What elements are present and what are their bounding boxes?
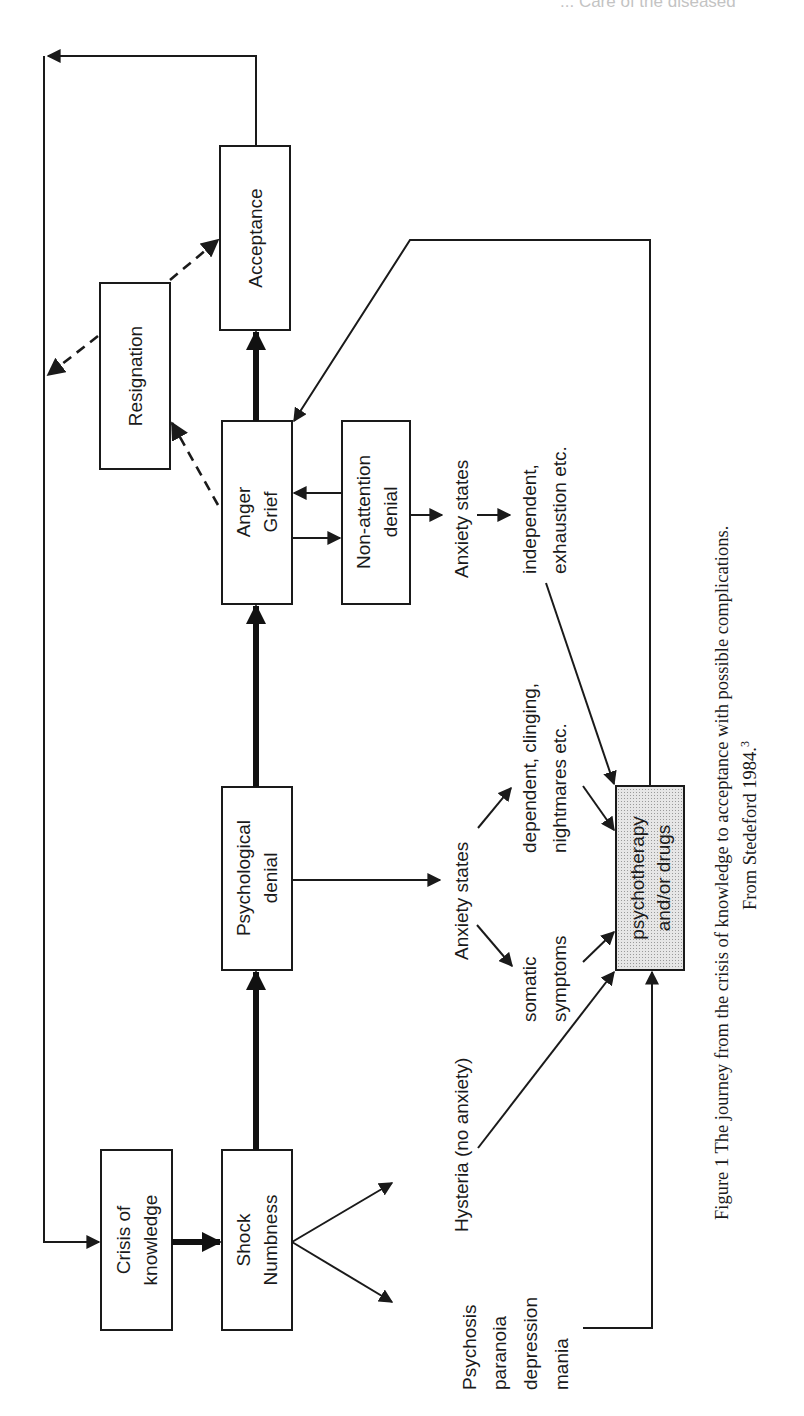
hysteria-label: Hysteria (no anxiety) <box>451 1058 472 1232</box>
loop-left <box>44 56 99 1242</box>
arrow-resignation-loop <box>48 336 98 375</box>
flow-diagram: Crisis of knowledge Shock Numbness Psych… <box>0 0 804 1416</box>
independent-label-2: exhaustion etc. <box>549 446 570 574</box>
shock-label-1: Shock <box>233 1213 254 1266</box>
anger-label-1: Anger <box>233 486 254 537</box>
psychosis-label-4: mania <box>551 1338 572 1390</box>
arrow-to-psychosis <box>292 1242 392 1302</box>
dependent-label-1: dependent, clinging, <box>519 683 540 853</box>
nonattention-label-1: Non-attention <box>353 455 374 569</box>
caption-source: From Stedeford 1984. <box>740 747 760 910</box>
psychosis-label-2: paranoia <box>489 1316 510 1390</box>
therapy-label-2: and/or drugs <box>653 825 674 932</box>
somatic-label-2: symptoms <box>549 935 570 1022</box>
acceptance-label: Acceptance <box>245 188 266 287</box>
nonattention-label-2: denial <box>380 487 401 538</box>
anxiety-states-2: Anxiety states <box>451 460 472 578</box>
arrow-dependent-therapy <box>583 786 614 830</box>
arrow-to-hysteria <box>292 1183 392 1242</box>
caption-line-1: Figure 1 The journey from the crisis of … <box>712 526 732 1220</box>
arrow-psychosis-therapy <box>583 972 652 1328</box>
arrow-anxiety-dependent <box>478 788 511 828</box>
arrow-anger-resignation <box>172 423 218 505</box>
psychosis-label-3: depression <box>520 1297 541 1390</box>
somatic-label-1: somatic <box>519 957 540 1022</box>
anxiety-states-1: Anxiety states <box>451 842 472 960</box>
arrow-somatic-therapy <box>583 932 614 962</box>
caption-line-2: From Stedeford 1984.3 <box>738 741 760 910</box>
caption-ref: 3 <box>738 741 752 747</box>
crisis-label-1: Crisis of <box>113 1205 134 1274</box>
crisis-label-2: knowledge <box>140 1195 161 1286</box>
therapy-label-1: psychotherapy <box>627 816 648 940</box>
loop-top <box>48 56 256 146</box>
anger-label-2: Grief <box>260 491 281 533</box>
denial-label-1: Psychological <box>233 820 254 936</box>
denial-label-2: denial <box>260 853 281 904</box>
crisis-box <box>101 1150 172 1330</box>
arrow-resignation-acceptance <box>170 240 218 280</box>
arrow-anxiety-somatic <box>477 925 512 966</box>
dependent-label-2: nightmares etc. <box>549 723 570 853</box>
shock-label-2: Numbness <box>260 1195 281 1286</box>
psychosis-label-1: Psychosis <box>459 1304 480 1390</box>
independent-label-1: independent, <box>519 464 540 574</box>
arrow-hysteria-therapy <box>478 972 614 1148</box>
resignation-label: Resignation <box>125 326 146 426</box>
